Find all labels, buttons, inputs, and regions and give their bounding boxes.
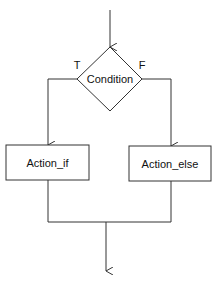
- action-if-label: Action_if: [26, 157, 69, 169]
- merge-edge: [48, 180, 171, 222]
- action-if-node: Action_if: [6, 145, 89, 180]
- action-else-node: Action_else: [129, 146, 211, 181]
- true-branch-edge: [48, 79, 77, 145]
- condition-label: Condition: [87, 73, 133, 85]
- condition-node: Condition: [77, 47, 142, 111]
- action-else-label: Action_else: [142, 158, 199, 170]
- true-branch-label: T: [74, 59, 81, 71]
- flowchart: Condition T F Action_if Action_else: [0, 0, 216, 281]
- false-branch-edge: [142, 79, 171, 146]
- false-branch-label: F: [139, 59, 146, 71]
